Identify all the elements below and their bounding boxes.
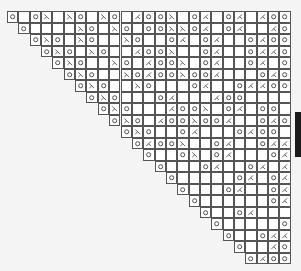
chart-cell — [166, 126, 177, 138]
chart-cell — [279, 92, 290, 104]
chart-cell — [177, 46, 188, 58]
chart-cell — [177, 138, 188, 150]
chart-cell — [223, 184, 234, 196]
chart-cell — [177, 184, 188, 196]
chart-cell — [279, 138, 290, 150]
chart-cell — [52, 46, 63, 58]
chart-cell — [155, 161, 166, 173]
chart-cell — [268, 138, 279, 150]
chart-cell — [234, 34, 245, 46]
chart-cell — [86, 11, 97, 23]
chart-cell — [234, 149, 245, 161]
chart-cell — [166, 115, 177, 127]
chart-cell — [245, 161, 256, 173]
chart-cell — [132, 69, 143, 81]
chart-cell — [279, 195, 290, 207]
chart-cell — [200, 126, 211, 138]
chart-cell — [234, 207, 245, 219]
chart-cell — [268, 57, 279, 69]
chart-cell — [200, 161, 211, 173]
chart-cell — [143, 34, 154, 46]
chart-cell — [268, 23, 279, 35]
chart-cell — [223, 115, 234, 127]
chart-cell — [211, 80, 222, 92]
chart-cell — [121, 34, 132, 46]
chart-cell — [279, 69, 290, 81]
chart-cell — [52, 34, 63, 46]
chart-cell — [86, 46, 97, 58]
chart-cell — [257, 195, 268, 207]
chart-cell — [75, 23, 86, 35]
chart-cell — [166, 103, 177, 115]
chart-cell — [41, 11, 52, 23]
chart-cell — [200, 23, 211, 35]
chart-cell — [234, 218, 245, 230]
chart-cell — [245, 138, 256, 150]
chart-cell — [223, 149, 234, 161]
chart-cell — [121, 69, 132, 81]
chart-cell — [155, 138, 166, 150]
chart-cell — [166, 57, 177, 69]
chart-cell — [155, 34, 166, 46]
chart-cell — [257, 115, 268, 127]
chart-cell — [189, 11, 200, 23]
chart-cell — [64, 23, 75, 35]
chart-cell — [234, 11, 245, 23]
chart-cell — [189, 69, 200, 81]
chart-cell — [86, 23, 97, 35]
chart-cell — [41, 23, 52, 35]
chart-cell — [211, 172, 222, 184]
chart-cell — [211, 11, 222, 23]
chart-cell — [166, 149, 177, 161]
chart-cell — [155, 92, 166, 104]
chart-cell — [18, 11, 29, 23]
chart-cell — [132, 103, 143, 115]
chart-cell — [86, 92, 97, 104]
chart-cell — [245, 103, 256, 115]
chart-cell — [211, 184, 222, 196]
chart-cell — [268, 69, 279, 81]
chart-cell — [143, 103, 154, 115]
chart-cell — [234, 57, 245, 69]
chart-cell — [155, 115, 166, 127]
chart-cell — [200, 172, 211, 184]
chart-cell — [211, 23, 222, 35]
chart-cell — [166, 69, 177, 81]
chart-cell — [245, 172, 256, 184]
chart-cell — [279, 149, 290, 161]
chart-cell — [121, 103, 132, 115]
chart-cell — [279, 115, 290, 127]
chart-cell — [245, 80, 256, 92]
chart-cell — [245, 253, 256, 265]
chart-cell — [223, 69, 234, 81]
chart-cell — [234, 138, 245, 150]
chart-cell — [245, 207, 256, 219]
chart-cell — [30, 23, 41, 35]
chart-cell — [98, 80, 109, 92]
chart-cell — [109, 23, 120, 35]
chart-cell — [75, 57, 86, 69]
chart-cell — [121, 126, 132, 138]
chart-cell — [245, 218, 256, 230]
chart-cell — [234, 103, 245, 115]
chart-cell — [200, 195, 211, 207]
chart-cell — [223, 23, 234, 35]
chart-cell — [257, 80, 268, 92]
side-scroll-handle[interactable] — [295, 112, 301, 157]
chart-cell — [132, 92, 143, 104]
chart-cell — [109, 115, 120, 127]
chart-cell — [177, 149, 188, 161]
chart-cell — [86, 57, 97, 69]
chart-cell — [132, 46, 143, 58]
chart-cell — [121, 80, 132, 92]
chart-cell — [223, 138, 234, 150]
chart-cell — [132, 138, 143, 150]
chart-cell — [257, 57, 268, 69]
chart-cell — [257, 69, 268, 81]
chart-cell — [200, 207, 211, 219]
chart-cell — [155, 126, 166, 138]
chart-cell — [257, 184, 268, 196]
chart-cell — [223, 161, 234, 173]
chart-cell — [279, 34, 290, 46]
chart-cell — [279, 230, 290, 242]
